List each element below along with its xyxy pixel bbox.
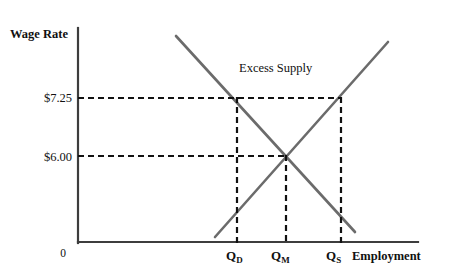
x-tick-qd-subscript: D (236, 255, 243, 265)
x-tick-qs-subscript: S (336, 255, 341, 265)
x-tick-equilibrium-quantity: QM (271, 249, 290, 262)
y-tick-equilibrium-wage: $6.00 (12, 151, 72, 164)
x-tick-qs-base: Q (326, 248, 336, 263)
excess-supply-annotation: Excess Supply (239, 62, 312, 75)
x-tick-qm-base: Q (271, 248, 281, 263)
x-tick-qd-base: Q (226, 248, 236, 263)
x-tick-qm-subscript: M (281, 255, 290, 265)
y-axis-label: Wage Rate (10, 28, 68, 41)
origin-label: 0 (46, 248, 66, 260)
supply-demand-figure: Wage Rate Employment $7.25 $6.00 0 QD QM… (0, 0, 463, 274)
x-tick-quantity-demanded: QD (226, 249, 243, 262)
x-axis-label: Employment (352, 250, 421, 263)
chart-canvas (0, 0, 463, 274)
x-tick-quantity-supplied: QS (326, 249, 341, 262)
y-tick-minimum-wage: $7.25 (12, 92, 72, 105)
